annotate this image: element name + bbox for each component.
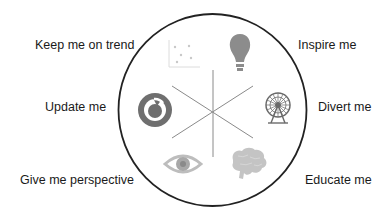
refresh-icon [138,93,172,127]
radial-diagram [0,0,389,216]
scatter-plot-icon [169,40,200,67]
ferris-wheel-icon [266,93,290,123]
brain-icon [232,148,266,179]
spokes [172,70,253,157]
lightbulb-icon [230,34,250,71]
eye-icon [165,156,201,172]
